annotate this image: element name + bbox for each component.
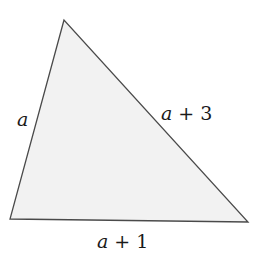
side-label-right: a + 3	[161, 102, 212, 124]
side-label-bottom: a + 1	[97, 230, 148, 252]
side-label-left: a	[17, 108, 28, 130]
triangle-diagram: a a + 3 a + 1	[0, 0, 265, 262]
